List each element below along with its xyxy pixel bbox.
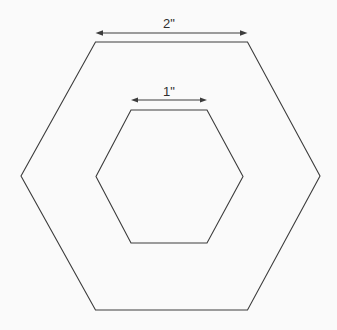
outer-hexagon-shape bbox=[21, 42, 320, 310]
inner-width-label: 1" bbox=[163, 84, 175, 99]
inner-width-dimension: 1" bbox=[131, 84, 207, 103]
outer-dimension-arrowhead-left-icon bbox=[96, 30, 104, 36]
inner-dimension-arrowhead-left-icon bbox=[131, 97, 138, 102]
inner-hexagon-shape bbox=[96, 110, 243, 243]
outer-width-dimension: 2" bbox=[96, 16, 248, 36]
outer-dimension-arrowhead-right-icon bbox=[240, 30, 248, 36]
inner-dimension-arrowhead-right-icon bbox=[200, 97, 207, 102]
outer-width-label: 2" bbox=[163, 16, 175, 31]
hexagon-diagram-svg: 2" 1" bbox=[0, 0, 337, 330]
hexagon-diagram-canvas: 2" 1" bbox=[0, 0, 337, 330]
